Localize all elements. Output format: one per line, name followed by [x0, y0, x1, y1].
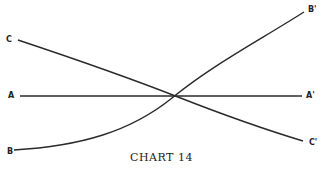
line-c — [18, 40, 303, 141]
label-c-start: C — [6, 36, 12, 44]
label-b-end: B' — [308, 6, 317, 14]
label-c-end: C' — [309, 139, 317, 147]
line-b — [14, 12, 304, 150]
label-a-end: A' — [306, 92, 315, 100]
chart-caption: CHART 14 — [0, 151, 323, 164]
chart-diagram — [0, 0, 323, 173]
label-a-start: A — [8, 92, 14, 100]
